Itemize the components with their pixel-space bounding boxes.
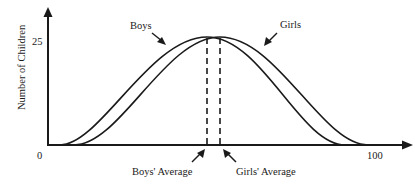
y-axis-label: Number of Children — [16, 25, 27, 110]
x-tick-100: 100 — [367, 150, 383, 161]
x-tick-0: 0 — [37, 150, 42, 161]
y-tick-25: 25 — [32, 36, 43, 47]
girls-average-arrow-icon — [223, 149, 236, 162]
boys-curve — [60, 37, 345, 145]
y-axis-arrow-icon — [44, 7, 53, 17]
boys-average-label: Boys' Average — [132, 166, 192, 177]
girls-label: Girls — [280, 19, 301, 30]
bell-curve-diagram — [0, 0, 415, 189]
boys-arrow-icon — [152, 33, 166, 45]
x-axis-arrow-icon — [402, 141, 413, 150]
girls-curve — [74, 37, 368, 145]
girls-arrow-icon — [264, 33, 277, 46]
boys-average-arrow-icon — [192, 149, 205, 162]
boys-label: Boys — [130, 20, 152, 31]
girls-average-label: Girls' Average — [236, 166, 296, 177]
